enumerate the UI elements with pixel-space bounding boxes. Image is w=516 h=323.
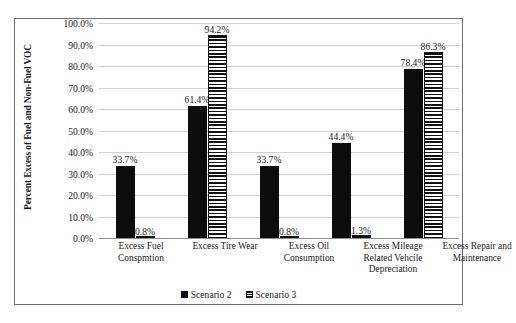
y-axis-tick-labels: 100.0%90.0%80.0%70.0%60.0%50.0%40.0%30.0… [41, 23, 97, 238]
bar-group: 44.4%1.3% [315, 23, 387, 238]
y-axis-tick-label: 30.0% [68, 168, 93, 179]
bar-group: 61.4%94.2% [171, 23, 243, 238]
bar-value-label: 78.4% [401, 57, 426, 68]
bar-value-label: 94.2% [205, 24, 230, 35]
bar-scenario-2[interactable]: 44.4% [332, 143, 351, 238]
bar-scenario-3[interactable]: 94.2% [208, 35, 227, 238]
legend-item[interactable]: Scenario 3 [246, 289, 297, 300]
bar-value-label: 61.4% [185, 94, 210, 105]
legend-label: Scenario 3 [256, 289, 297, 300]
bar-value-label: 33.7% [257, 154, 282, 165]
plot-area: 33.7%0.8%61.4%94.2%33.7%0.8%44.4%1.3%78.… [99, 23, 459, 238]
bar-scenario-2[interactable]: 33.7% [260, 166, 279, 238]
y-axis-tick-label: 20.0% [68, 190, 93, 201]
bar-scenario-3[interactable]: 1.3% [352, 235, 371, 238]
axis-baseline [99, 238, 459, 239]
bar-group: 33.7%0.8% [243, 23, 315, 238]
plot-wrapper: 100.0%90.0%80.0%70.0%60.0%50.0%40.0%30.0… [41, 23, 461, 238]
y-axis-tick-label: 50.0% [68, 125, 93, 136]
legend-swatch-icon [246, 291, 253, 298]
y-axis-tick-label: 80.0% [68, 61, 93, 72]
bar-value-label: 44.4% [329, 131, 354, 142]
bar-pair: 44.4%1.3% [315, 23, 387, 238]
bar-value-label: 86.3% [421, 41, 446, 52]
bar-group: 33.7%0.8% [99, 23, 171, 238]
y-axis-tick-label: 70.0% [68, 82, 93, 93]
y-axis-title-text: Percent Excess of Fuel and Non-Fuel VOC [23, 44, 33, 210]
y-axis-tick-label: 60.0% [68, 104, 93, 115]
bar-pair: 61.4%94.2% [171, 23, 243, 238]
bar-value-label: 33.7% [113, 154, 138, 165]
chart-legend: Scenario 2Scenario 3 [15, 289, 462, 300]
y-axis-title: Percent Excess of Fuel and Non-Fuel VOC [15, 19, 41, 234]
bar-groups: 33.7%0.8%61.4%94.2%33.7%0.8%44.4%1.3%78.… [99, 23, 459, 238]
bar-scenario-2[interactable]: 78.4% [404, 69, 423, 238]
bar-pair: 33.7%0.8% [99, 23, 171, 238]
y-axis-tick-label: 10.0% [68, 211, 93, 222]
bar-scenario-3[interactable]: 86.3% [424, 52, 443, 238]
bar-scenario-3[interactable]: 0.8% [280, 236, 299, 238]
bar-value-label: 1.3% [351, 225, 371, 236]
bar-pair: 78.4%86.3% [387, 23, 459, 238]
bar-value-label: 0.8% [279, 226, 299, 237]
bar-scenario-2[interactable]: 33.7% [116, 166, 135, 238]
bar-scenario-3[interactable]: 0.8% [136, 236, 155, 238]
bar-value-label: 0.8% [135, 226, 155, 237]
legend-swatch-icon [181, 291, 188, 298]
chart-figure: Percent Excess of Fuel and Non-Fuel VOC … [14, 18, 463, 305]
y-axis-tick-label: 40.0% [68, 147, 93, 158]
legend-label: Scenario 2 [191, 289, 232, 300]
y-axis-tick-label: 90.0% [68, 39, 93, 50]
y-axis-tick-label: 0.0% [73, 233, 93, 244]
bar-pair: 33.7%0.8% [243, 23, 315, 238]
legend-item[interactable]: Scenario 2 [181, 289, 232, 300]
bar-scenario-2[interactable]: 61.4% [188, 106, 207, 238]
bar-group: 78.4%86.3% [387, 23, 459, 238]
y-axis-tick-label: 100.0% [63, 18, 93, 29]
